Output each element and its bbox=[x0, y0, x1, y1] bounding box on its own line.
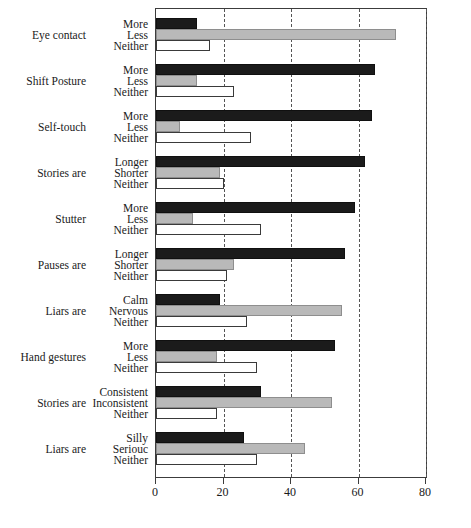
bar bbox=[156, 64, 375, 75]
bar bbox=[156, 121, 180, 132]
x-axis-tick-label: 0 bbox=[152, 486, 158, 499]
x-axis-tick-label: 60 bbox=[352, 486, 364, 499]
bar bbox=[156, 224, 261, 235]
category-label: Liars are bbox=[0, 443, 86, 455]
bar bbox=[156, 408, 217, 419]
bar bbox=[156, 294, 220, 305]
category-label: Hand gestures bbox=[0, 351, 86, 363]
bar bbox=[156, 202, 355, 213]
bar bbox=[156, 18, 197, 29]
option-label: Neither bbox=[38, 408, 148, 420]
option-label: Neither bbox=[38, 86, 148, 98]
category-label: Stories are bbox=[0, 167, 86, 179]
bar bbox=[156, 110, 372, 121]
gridline-80 bbox=[426, 9, 427, 477]
x-axis-tick bbox=[425, 478, 426, 484]
category-label: Pauses are bbox=[0, 259, 86, 271]
bar bbox=[156, 386, 261, 397]
category-label: Eye contact bbox=[0, 29, 86, 41]
category-label: Liars are bbox=[0, 305, 86, 317]
gridline-60 bbox=[359, 9, 360, 477]
bar bbox=[156, 397, 332, 408]
category-label: Shift Posture bbox=[0, 75, 86, 87]
option-label: Neither bbox=[38, 362, 148, 374]
bar bbox=[156, 454, 257, 465]
bar bbox=[156, 167, 220, 178]
bar bbox=[156, 29, 396, 40]
option-label: Neither bbox=[38, 270, 148, 282]
option-label: Neither bbox=[38, 224, 148, 236]
bar-chart: MoreLessNeitherEye contactMoreLessNeithe… bbox=[0, 0, 471, 528]
bar bbox=[156, 132, 251, 143]
bar bbox=[156, 75, 197, 86]
category-label: Stories are bbox=[0, 397, 86, 409]
category-label: Self-touch bbox=[0, 121, 86, 133]
category-label-column: MoreLessNeitherEye contactMoreLessNeithe… bbox=[0, 0, 152, 528]
bar bbox=[156, 40, 210, 51]
bar bbox=[156, 432, 244, 443]
bar bbox=[156, 351, 217, 362]
bar bbox=[156, 270, 227, 281]
option-label: Neither bbox=[38, 178, 148, 190]
x-axis: 020406080 bbox=[155, 478, 427, 518]
plot-area bbox=[155, 8, 427, 478]
x-axis-tick bbox=[155, 478, 156, 484]
bar bbox=[156, 213, 193, 224]
bar bbox=[156, 86, 234, 97]
bar bbox=[156, 443, 305, 454]
bar bbox=[156, 316, 247, 327]
x-axis-tick bbox=[290, 478, 291, 484]
x-axis-tick bbox=[223, 478, 224, 484]
x-axis-tick bbox=[358, 478, 359, 484]
bar bbox=[156, 305, 342, 316]
bar bbox=[156, 340, 335, 351]
x-axis-tick-label: 40 bbox=[284, 486, 296, 499]
bar bbox=[156, 248, 345, 259]
bar bbox=[156, 362, 257, 373]
x-axis-tick-label: 20 bbox=[217, 486, 229, 499]
bar bbox=[156, 156, 365, 167]
option-label: Neither bbox=[38, 40, 148, 52]
category-label: Stutter bbox=[0, 213, 86, 225]
option-label: Neither bbox=[38, 454, 148, 466]
bar bbox=[156, 178, 224, 189]
option-label: Neither bbox=[38, 316, 148, 328]
bar bbox=[156, 259, 234, 270]
option-label: Neither bbox=[38, 132, 148, 144]
x-axis-tick-label: 80 bbox=[419, 486, 431, 499]
